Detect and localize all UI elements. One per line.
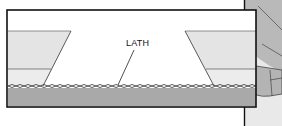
base-band [8,88,256,106]
lath-diagram: LATH [0,0,282,126]
lath-label: LATH [126,38,149,48]
